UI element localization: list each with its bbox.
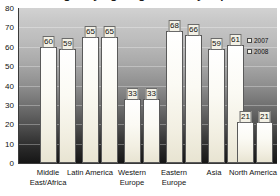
bar-value-label: 60 (42, 36, 55, 48)
y-axis-tick: 70 (0, 23, 14, 32)
y-axis-tick: 0 (0, 159, 14, 168)
legend-label: 2007 (254, 37, 268, 45)
bar-2008[interactable]: 66 (185, 35, 202, 163)
bar-2008[interactable]: 33 (143, 99, 160, 163)
bar-2008[interactable]: 65 (101, 37, 118, 163)
bar-value-label: 21 (239, 111, 252, 123)
bar-group: 60 59 (40, 8, 76, 163)
y-axis-tick: 10 (0, 139, 14, 148)
bar-2007[interactable]: 59 (208, 49, 225, 163)
bar-value-label: 59 (210, 38, 223, 50)
legend-label: 2008 (254, 48, 268, 56)
x-axis-label: North America (226, 168, 280, 178)
bar-group: 33 33 (124, 8, 160, 163)
legend-item-2008[interactable]: 2008 (247, 47, 268, 56)
bar-value-label: 65 (103, 26, 116, 38)
y-axis-tick: 80 (0, 4, 14, 13)
bar-2007[interactable]: 21 (237, 122, 254, 163)
bar-group: 68 66 (166, 8, 202, 163)
bar-value-label: 21 (258, 111, 271, 123)
legend-swatch-icon (247, 38, 252, 43)
bar-value-label: 68 (168, 20, 181, 32)
plot-area: 60 59 65 65 33 33 68 (18, 8, 277, 164)
bar-chart: Percentage saying religion is very impor… (0, 0, 280, 196)
legend: 2007 2008 (245, 35, 270, 59)
y-axis-tick: 50 (0, 62, 14, 71)
y-axis-tick: 60 (0, 42, 14, 51)
bar-2007[interactable]: 68 (166, 31, 183, 163)
bar-2008[interactable]: 59 (59, 49, 76, 163)
bar-2007[interactable]: 65 (82, 37, 99, 163)
y-axis-tick: 30 (0, 100, 14, 109)
x-axis-label: Western Europe (108, 168, 156, 187)
bar-value-label: 33 (126, 88, 139, 100)
bar-value-label: 65 (84, 26, 97, 38)
bar-2007[interactable]: 33 (124, 99, 141, 163)
x-axis-label: Eastern Europe (150, 168, 198, 187)
bar-2007[interactable]: 60 (40, 47, 57, 163)
bar-value-label: 33 (145, 88, 158, 100)
legend-swatch-icon (247, 49, 252, 54)
y-axis-tick: 20 (0, 120, 14, 129)
bar-2008[interactable]: 21 (256, 122, 273, 163)
y-axis-tick: 40 (0, 81, 14, 90)
bar-group: 21 21 (237, 8, 273, 163)
bar-group: 65 65 (82, 8, 118, 163)
chart-title: Percentage saying religion is very impor… (14, 0, 276, 3)
bar-value-label: 66 (187, 24, 200, 36)
legend-item-2007[interactable]: 2007 (247, 36, 268, 45)
bar-value-label: 59 (61, 38, 74, 50)
